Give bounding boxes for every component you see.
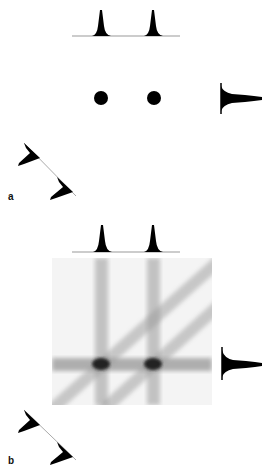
top-projection-profile <box>72 225 180 252</box>
panel-a-graphic <box>0 0 275 220</box>
panel-a: a <box>0 0 275 220</box>
backprojection-image <box>40 258 225 420</box>
point-source-1 <box>94 91 108 105</box>
panel-b-graphic <box>0 220 275 472</box>
right-projection-profile <box>222 347 262 380</box>
panel-label-b: b <box>8 455 14 466</box>
top-projection-profile <box>72 10 180 36</box>
right-projection-profile <box>221 83 262 114</box>
panel-b: b <box>0 220 275 472</box>
diagonal-projection-profile <box>18 143 76 200</box>
panel-label-a: a <box>8 191 14 202</box>
diagonal-projection-profile <box>18 410 76 465</box>
point-source-2 <box>147 91 161 105</box>
